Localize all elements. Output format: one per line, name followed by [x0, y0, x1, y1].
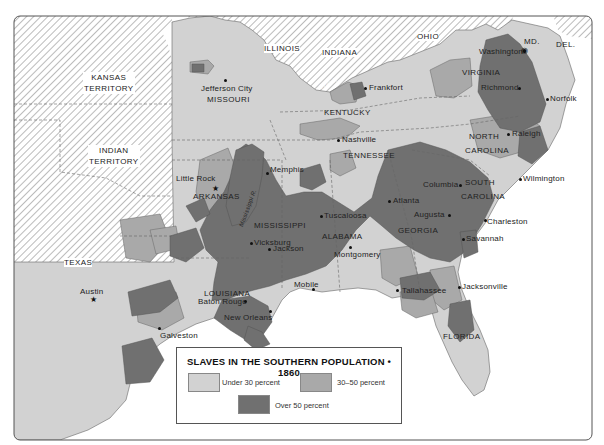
capital-star-icon: ★: [90, 296, 97, 304]
city-marker: [546, 98, 549, 101]
state-label-missouri: MISSOURI: [207, 95, 250, 104]
legend-label-30-50: 30–50 percent: [337, 378, 385, 387]
state-label-south-carolina-2: CAROLINA: [461, 192, 505, 201]
city-label-frankfort: Frankfort: [369, 83, 403, 92]
city-label-baton-rouge: Baton Rouge: [198, 297, 247, 306]
city-marker: [462, 238, 465, 241]
city-label-wilmington: Wilmington: [523, 174, 565, 183]
state-label-south-carolina-1: SOUTH: [465, 178, 495, 187]
state-label-indiana: INDIANA: [322, 48, 357, 57]
city-marker: [312, 288, 315, 291]
city-marker: [448, 214, 451, 217]
state-label-illinois: ILLINOIS: [264, 44, 300, 53]
city-marker: [364, 87, 367, 90]
city-label-jackson: Jackson: [273, 244, 304, 253]
city-label-little-rock: Little Rock: [176, 174, 216, 183]
city-marker: [388, 200, 391, 203]
state-label-florida: FLORIDA: [443, 332, 480, 341]
city-marker: [396, 289, 399, 292]
city-label-savannah: Savannah: [466, 234, 504, 243]
territory-label-kansas: KANSASTERRITORY: [83, 72, 135, 94]
city-marker: [349, 246, 352, 249]
city-label-galveston: Galveston: [160, 331, 198, 340]
city-label-washington: Washington: [479, 47, 523, 56]
territory-label-indian: INDIANTERRITORY: [88, 145, 140, 167]
city-label-richmond: Richmond: [481, 83, 519, 92]
state-label-north-carolina-2: CAROLINA: [465, 146, 509, 155]
legend-swatch-over-50: [238, 395, 270, 414]
missouri-river: [192, 64, 204, 72]
city-label-jacksonville: Jacksonville: [462, 282, 508, 291]
city-marker: [320, 215, 323, 218]
state-label-virginia: VIRGINIA: [462, 68, 500, 77]
city-marker: [250, 242, 253, 245]
state-label-georgia: GEORGIA: [398, 226, 438, 235]
city-label-charleston: Charleston: [487, 217, 528, 226]
state-label-arkansas: ARKANSAS: [193, 192, 240, 201]
city-marker: [519, 178, 522, 181]
city-label-norfolk: Norfolk: [550, 94, 577, 103]
legend-label-under-30: Under 30 percent: [222, 378, 280, 387]
city-label-tuscaloosa: Tuscaloosa: [324, 211, 367, 220]
legend-swatch-under-30: [188, 373, 220, 392]
city-label-augusta: Augusta: [414, 210, 445, 219]
state-label-kentucky: KENTUCKY: [324, 108, 371, 117]
capital-star-icon: ★: [212, 185, 219, 193]
city-marker: [244, 300, 247, 303]
city-marker: [507, 133, 510, 136]
state-label-alabama: ALABAMA: [322, 232, 363, 241]
city-marker: [224, 79, 227, 82]
state-label-mississippi: MISSISSIPPI: [254, 221, 306, 230]
city-marker: [158, 327, 161, 330]
map-legend: SLAVES IN THE SOUTHERN POPULATION • 1860…: [176, 347, 402, 424]
city-marker: [268, 248, 271, 251]
city-marker: [269, 310, 272, 313]
state-label-north-carolina-1: NORTH: [469, 132, 499, 141]
city-label-montgomery: Montgomery: [334, 250, 380, 259]
legend-label-over-50: Over 50 percent: [275, 401, 329, 410]
state-label-ohio: OHIO: [417, 32, 439, 41]
city-label-columbia: Columbia: [423, 180, 458, 189]
city-marker: [459, 184, 462, 187]
state-label-tennessee: TENNESSEE: [343, 151, 395, 160]
city-label-new-orleans: New Orleans: [224, 313, 272, 322]
city-marker: [518, 87, 521, 90]
city-label-mobile: Mobile: [294, 280, 319, 289]
city-label-jefferson-city: Jefferson City: [201, 84, 253, 93]
state-label-texas: TEXAS: [64, 258, 92, 267]
capital-star-icon: ◉: [521, 47, 528, 55]
city-label-raleigh: Raleigh: [512, 129, 541, 138]
city-label-memphis: Memphis: [270, 165, 304, 174]
city-label-nashville: Nashville: [342, 135, 376, 144]
city-label-tallahassee: Tallahassee: [402, 286, 446, 295]
legend-swatch-30-50: [300, 373, 332, 392]
city-marker: [337, 139, 340, 142]
city-label-atlanta: Atlanta: [393, 196, 419, 205]
city-marker: [266, 172, 269, 175]
state-label-md: MD.: [524, 37, 540, 46]
state-label-del: DEL.: [556, 40, 575, 49]
city-marker: [458, 286, 461, 289]
